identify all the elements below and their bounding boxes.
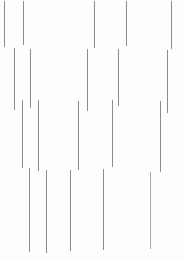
line-row-group xyxy=(30,168,151,253)
line-row-group xyxy=(5,1,172,49)
line-row-group xyxy=(23,100,161,172)
line-pattern-svg xyxy=(0,0,185,260)
line-row-group xyxy=(15,48,168,113)
line-pattern-canvas xyxy=(0,0,185,260)
